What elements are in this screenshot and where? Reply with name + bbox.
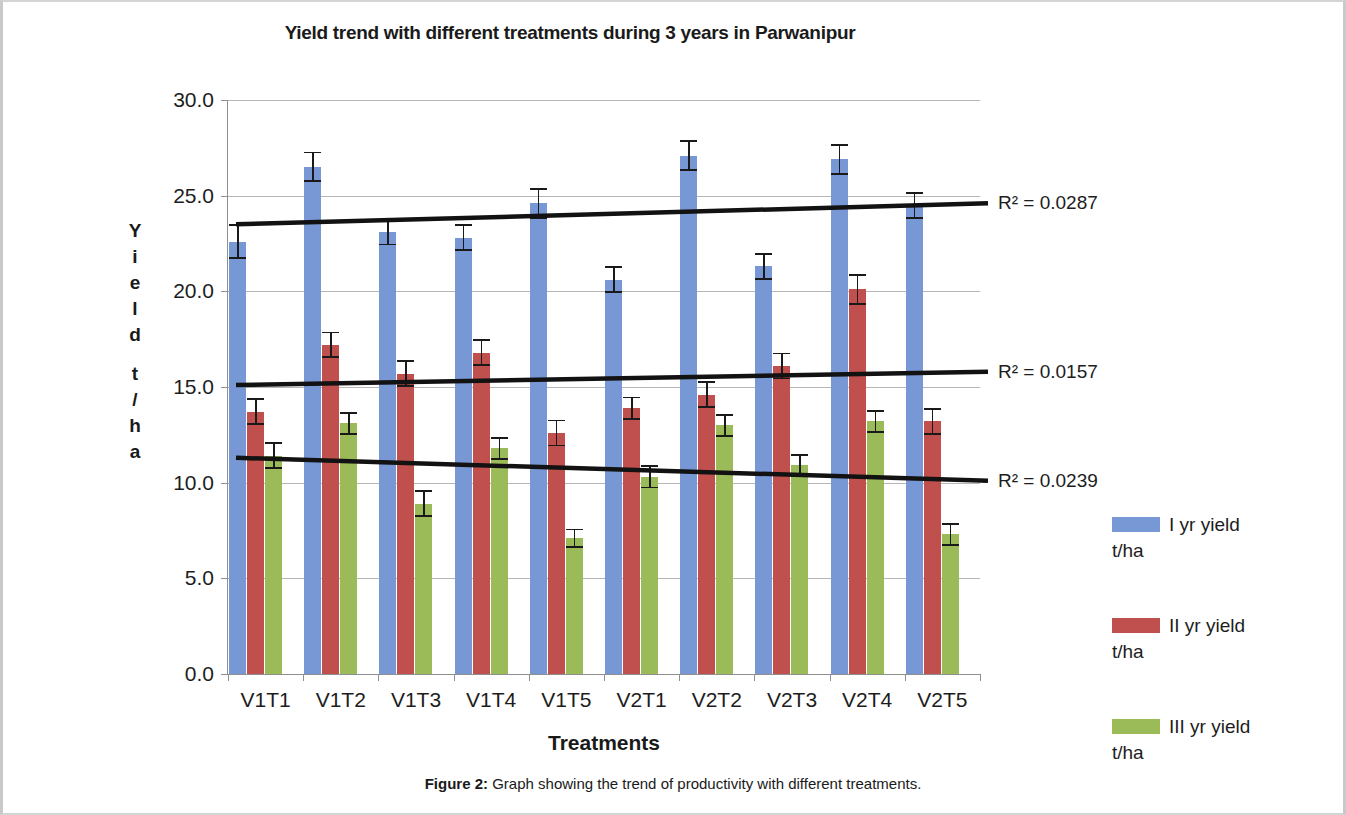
x-axis-tick-label: V1T1: [226, 688, 306, 712]
legend-label-line1: III yr yield: [1169, 716, 1250, 737]
r2-label: R² = 0.0287: [998, 192, 1098, 214]
y-axis-tick-label: 30.0: [173, 88, 214, 112]
y-axis-tick-mark: [221, 578, 228, 579]
x-axis-title: Treatments: [228, 731, 980, 755]
trendline: [236, 458, 988, 481]
x-axis-tick-mark: [679, 674, 680, 681]
x-axis-tick-mark: [303, 674, 304, 681]
y-axis-tick-mark: [221, 483, 228, 484]
y-axis-title-letter: Y: [118, 218, 152, 244]
figure-caption-label: Figure 2:: [425, 775, 488, 792]
x-axis-tick-mark: [378, 674, 379, 681]
y-axis-tick-label: 10.0: [173, 471, 214, 495]
legend-item: II yr yieldt/ha: [1112, 613, 1332, 665]
legend-label-line2: t/ha: [1112, 740, 1332, 766]
figure-caption: Figure 2: Graph showing the trend of pro…: [0, 775, 1346, 792]
y-axis-title-letter: h: [118, 413, 152, 439]
x-axis-tick-mark: [604, 674, 605, 681]
x-axis-tick-label: V1T2: [301, 688, 381, 712]
trendlines: [228, 100, 980, 674]
x-axis-tick-mark: [754, 674, 755, 681]
y-axis-tick-label: 25.0: [173, 184, 214, 208]
x-axis-tick-mark: [529, 674, 530, 681]
plot-area: 0.05.010.015.020.025.030.0 V1T1V1T2V1T3V…: [228, 100, 980, 674]
y-axis-tick-label: 20.0: [173, 279, 214, 303]
y-axis-title-gap: [118, 348, 152, 361]
y-axis-tick-mark: [221, 100, 228, 101]
legend-label-line1: II yr yield: [1169, 615, 1245, 636]
chart-legend: I yr yieldt/haII yr yieldt/haIII yr yiel…: [1112, 512, 1332, 815]
r2-label: R² = 0.0239: [998, 470, 1098, 492]
y-axis-title-letter: a: [118, 439, 152, 465]
legend-color-swatch: [1112, 618, 1160, 633]
x-axis-tick-label: V2T2: [677, 688, 757, 712]
y-axis-tick-label: 0.0: [185, 662, 214, 686]
y-axis-tick-mark: [221, 291, 228, 292]
legend-color-swatch: [1112, 517, 1160, 532]
x-axis-tick-mark: [905, 674, 906, 681]
figure-caption-text: Graph showing the trend of productivity …: [488, 775, 921, 792]
figure-container: Yield trend with different treatments du…: [0, 0, 1346, 815]
y-axis-tick-label: 15.0: [173, 375, 214, 399]
y-axis-title: Yieldt/ha: [118, 218, 152, 465]
x-axis-tick-label: V1T5: [526, 688, 606, 712]
legend-item: III yr yieldt/ha: [1112, 714, 1332, 766]
y-axis-tick-label: 5.0: [185, 566, 214, 590]
x-axis-tick-label: V2T4: [827, 688, 907, 712]
chart-title: Yield trend with different treatments du…: [0, 22, 1140, 44]
y-axis-tick-mark: [221, 387, 228, 388]
x-axis-tick-label: V2T5: [902, 688, 982, 712]
y-axis-title-letter: d: [118, 322, 152, 348]
x-axis-tick-label: V1T4: [451, 688, 531, 712]
y-axis-title-letter: e: [118, 270, 152, 296]
x-axis-tick-mark: [454, 674, 455, 681]
y-axis-title-letter: /: [118, 387, 152, 413]
legend-label-line2: t/ha: [1112, 639, 1332, 665]
legend-label-line2: t/ha: [1112, 538, 1332, 564]
x-axis-tick-mark: [228, 674, 229, 681]
legend-color-swatch: [1112, 719, 1160, 734]
y-axis-title-letter: i: [118, 244, 152, 270]
legend-item: I yr yieldt/ha: [1112, 512, 1332, 564]
y-axis-tick-mark: [221, 674, 228, 675]
legend-label-line1: I yr yield: [1169, 514, 1240, 535]
x-axis-tick-mark: [830, 674, 831, 681]
x-axis-tick-label: V1T3: [376, 688, 456, 712]
y-axis-title-letter: t: [118, 361, 152, 387]
x-axis-tick-label: V2T1: [602, 688, 682, 712]
trendline: [236, 203, 988, 224]
r2-label: R² = 0.0157: [998, 361, 1098, 383]
x-axis-tick-mark: [980, 674, 981, 681]
y-axis-title-letter: l: [118, 296, 152, 322]
x-axis-tick-label: V2T3: [752, 688, 832, 712]
trendline: [236, 372, 988, 385]
y-axis-tick-mark: [221, 196, 228, 197]
